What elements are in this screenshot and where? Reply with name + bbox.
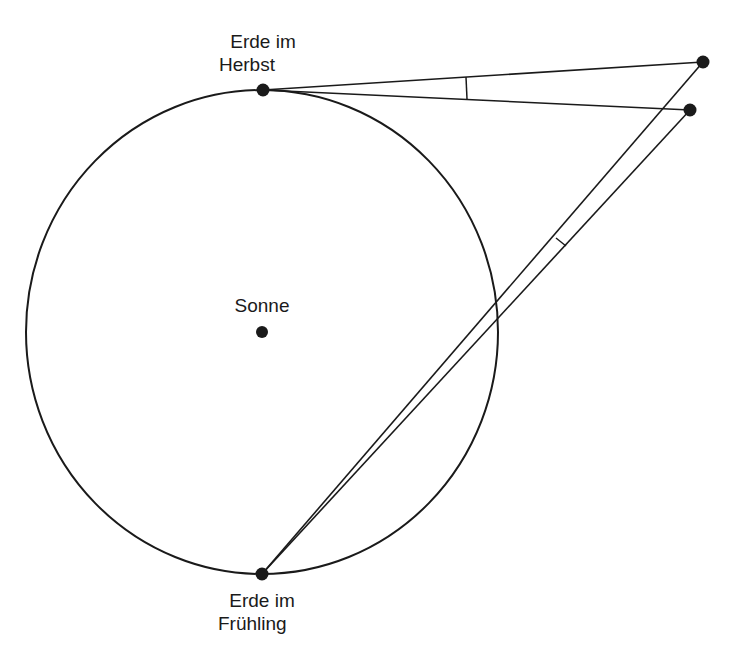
earth-autumn-dot — [257, 84, 270, 97]
label-earth-autumn-line2: Herbst — [213, 53, 313, 76]
star-far-dot — [697, 56, 710, 69]
sun-dot — [256, 326, 268, 338]
label-earth-autumn-line1: Erde im — [213, 30, 313, 53]
star-near-dot — [684, 104, 697, 117]
label-earth-autumn: Erde im Herbst — [213, 30, 313, 76]
earth-spring-dot — [256, 568, 269, 581]
sightline-spring-near-star — [262, 110, 690, 574]
sightline-spring-far-star — [262, 62, 703, 574]
parallax-diagram — [0, 0, 730, 662]
angle-marker-spring — [556, 238, 566, 246]
label-sun: Sonne — [212, 294, 312, 317]
label-earth-spring-line1: Erde im — [212, 589, 312, 612]
angle-marker-autumn — [466, 77, 467, 99]
sightline-autumn-far-star — [263, 62, 703, 90]
label-earth-spring-line2: Frühling — [212, 612, 312, 635]
label-earth-spring: Erde im Frühling — [212, 589, 312, 635]
